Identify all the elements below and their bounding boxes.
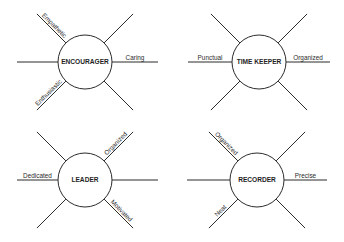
hub-title: RECORDER (238, 176, 276, 183)
spoke-upper-right (278, 14, 307, 43)
diagram-recorder: RECORDERPreciseOrganizedNeat (187, 130, 327, 228)
trait-label-lower-left: Neat (213, 203, 228, 218)
role-web-diagrams: ENCOURAGERCaringEmpatheticEnthusiasticTI… (0, 0, 344, 242)
trait-label-lower-right: Motivated (109, 198, 134, 223)
spoke-lower-right (276, 199, 305, 228)
trait-label-lower-left: Enthusiastic (34, 77, 64, 107)
trait-label-right: Organized (293, 54, 323, 62)
trait-label-left: Dedicated (23, 172, 52, 179)
spoke-upper-right (276, 132, 305, 161)
trait-label-upper-left: Empathetic (40, 11, 69, 40)
diagram-canvas: ENCOURAGERCaringEmpatheticEnthusiasticTI… (0, 0, 344, 242)
diagram-encourager: ENCOURAGERCaringEmpatheticEnthusiastic (17, 11, 158, 110)
trait-label-upper-right: Organized (103, 130, 130, 157)
spoke-lower-right (104, 81, 133, 110)
trait-label-right: Precise (295, 172, 317, 179)
spoke-lower-right (278, 81, 307, 110)
spoke-upper-left (37, 132, 66, 161)
hub-title: TIME KEEPER (237, 58, 282, 65)
trait-label-right: Caring (126, 54, 145, 62)
hub-title: LEADER (71, 176, 98, 183)
spoke-lower-left (37, 199, 66, 228)
trait-label-left: Punctual (198, 54, 223, 61)
diagram-leader: LEADERDedicatedOrganizedMotivated (17, 130, 158, 228)
diagram-time-keeper: TIME KEEPERPunctualOrganized (188, 14, 330, 110)
trait-label-upper-left: Organized (213, 130, 240, 157)
spoke-upper-right (104, 14, 133, 43)
spoke-upper-left (211, 14, 240, 43)
spoke-lower-left (211, 81, 240, 110)
hub-title: ENCOURAGER (61, 58, 109, 65)
